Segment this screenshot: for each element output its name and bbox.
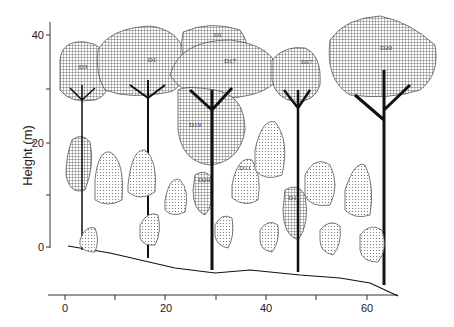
x-tick-20: 20 — [160, 302, 172, 314]
tree-label-d1b: D1 — [214, 31, 223, 39]
y-axis-label: Height (m) — [20, 121, 35, 191]
forest-profile-diagram: 40 20 0 0 20 40 60 — [0, 0, 454, 327]
tree-label-d11b: D11 — [288, 194, 300, 202]
tree-label-d17: D17 — [224, 57, 237, 65]
tree-label-d3: D3 — [79, 63, 88, 71]
x-tick-0: 0 — [62, 302, 68, 314]
x-tick-40: 40 — [260, 302, 272, 314]
tree-label-d20: D20 — [380, 44, 393, 52]
x-axis: 0 20 40 60 — [48, 295, 398, 314]
x-tick-60: 60 — [361, 302, 373, 314]
ground-line — [68, 246, 398, 296]
tree-label-d1: D1 — [148, 56, 157, 64]
tree-label-d17b: D17 — [301, 58, 314, 66]
tree-label-d20b: D20 — [198, 176, 211, 184]
tree-label-d11: D11 — [239, 164, 251, 172]
y-tick-0: 0 — [38, 241, 44, 253]
y-tick-40: 40 — [32, 29, 44, 41]
tree-label-d19: D19 — [189, 121, 202, 129]
